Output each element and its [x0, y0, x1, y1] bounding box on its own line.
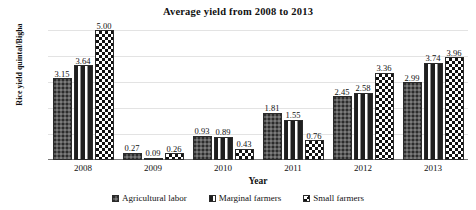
bar[interactable]: 2.45	[333, 96, 352, 160]
bar-slot: 1.55	[284, 30, 303, 160]
bar[interactable]: 0.43	[235, 149, 254, 160]
legend-swatch-icon	[209, 195, 216, 202]
bar[interactable]: 1.55	[284, 120, 303, 160]
bar[interactable]: 3.64	[74, 65, 93, 160]
bar-value-label: 3.15	[55, 70, 70, 79]
bar-slot: 1.81	[263, 30, 282, 160]
legend-label: Small farmers	[313, 193, 364, 203]
bar-slot: 2.99	[403, 30, 422, 160]
bar-value-label: 0.27	[125, 144, 140, 153]
bar-slot: 5.00	[95, 30, 114, 160]
legend-label: Agricultural labor	[122, 193, 187, 203]
legend-item[interactable]: Small farmers	[303, 193, 364, 203]
chart-container: Average yield from 2008 to 2013 Rice yie…	[0, 0, 476, 210]
bar[interactable]: 0.76	[305, 140, 324, 160]
bar-slot: 0.27	[123, 30, 142, 160]
bar[interactable]: 0.27	[123, 153, 142, 160]
bar-value-label: 0.76	[307, 132, 322, 141]
bar-value-label: 0.93	[195, 127, 210, 136]
bar[interactable]: 5.00	[95, 30, 114, 160]
bar-value-label: 1.81	[265, 104, 280, 113]
bar-slot: 0.09	[144, 30, 163, 160]
legend-label: Marginal farmers	[219, 193, 282, 203]
bar[interactable]: 0.09	[144, 158, 163, 161]
legend-swatch-icon	[303, 195, 310, 202]
bar-groups: 3.153.645.000.270.090.260.930.890.431.81…	[48, 30, 468, 160]
x-axis-tick-label: 2013	[398, 163, 468, 173]
bar-value-label: 2.99	[405, 74, 420, 83]
bar-value-label: 3.64	[76, 57, 91, 66]
bar-group: 1.811.550.76	[258, 30, 328, 160]
x-axis-tick-label: 2008	[48, 163, 118, 173]
bar[interactable]: 3.74	[424, 63, 443, 160]
bar-slot: 3.74	[424, 30, 443, 160]
bar-slot: 0.89	[214, 30, 233, 160]
bar-slot: 0.43	[235, 30, 254, 160]
legend-item[interactable]: Agricultural labor	[112, 193, 187, 203]
bar-group: 0.270.090.26	[118, 30, 188, 160]
bar[interactable]: 2.99	[403, 82, 422, 160]
bar[interactable]: 0.26	[165, 153, 184, 160]
plot-area: 0.001.002.003.004.005.00 3.153.645.000.2…	[48, 30, 468, 160]
bar-slot: 2.58	[354, 30, 373, 160]
bar-value-label: 1.55	[286, 111, 301, 120]
bar-slot: 2.45	[333, 30, 352, 160]
bar-value-label: 0.43	[237, 140, 252, 149]
bar-group: 3.153.645.00	[48, 30, 118, 160]
bar[interactable]: 3.36	[375, 73, 394, 160]
x-axis-tick-label: 2011	[258, 163, 328, 173]
x-axis-title: Year	[48, 176, 468, 186]
bar-slot: 3.64	[74, 30, 93, 160]
bar-group: 2.452.583.36	[328, 30, 398, 160]
bar[interactable]: 1.81	[263, 113, 282, 160]
bar-slot: 3.15	[53, 30, 72, 160]
bar[interactable]: 0.93	[193, 136, 212, 160]
bar-value-label: 5.00	[97, 22, 112, 31]
bar-slot: 0.26	[165, 30, 184, 160]
bar-slot: 3.36	[375, 30, 394, 160]
x-axis-tick-label: 2010	[188, 163, 258, 173]
legend-item[interactable]: Marginal farmers	[209, 193, 282, 203]
bar-value-label: 0.09	[146, 149, 161, 158]
bar[interactable]: 3.15	[53, 78, 72, 160]
bar-value-label: 3.74	[426, 54, 441, 63]
bar-value-label: 3.36	[377, 64, 392, 73]
bar-slot: 0.93	[193, 30, 212, 160]
legend-swatch-icon	[112, 195, 119, 202]
x-axis-tick-label: 2012	[328, 163, 398, 173]
y-axis-title: Rice yield quintal/Bigha	[15, 0, 24, 130]
bar-value-label: 0.26	[167, 145, 182, 154]
x-axis-tick-label: 2009	[118, 163, 188, 173]
bar-group: 2.993.743.96	[398, 30, 468, 160]
bar-value-label: 0.89	[216, 128, 231, 137]
bar-value-label: 2.45	[335, 88, 350, 97]
bar-group: 0.930.890.43	[188, 30, 258, 160]
bar-value-label: 3.96	[447, 49, 462, 58]
bar[interactable]: 0.89	[214, 137, 233, 160]
chart-legend: Agricultural laborMarginal farmersSmall …	[0, 193, 476, 203]
bar[interactable]: 3.96	[445, 57, 464, 160]
bar-value-label: 2.58	[356, 84, 371, 93]
bar-slot: 3.96	[445, 30, 464, 160]
x-axis-tick-labels: 200820092010201120122013	[48, 163, 468, 173]
bar[interactable]: 2.58	[354, 93, 373, 160]
chart-title: Average yield from 2008 to 2013	[0, 6, 476, 17]
bar-slot: 0.76	[305, 30, 324, 160]
